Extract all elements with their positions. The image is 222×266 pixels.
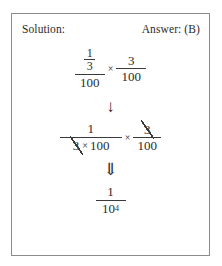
step-1-expression: 1 3 100 × 3 100 <box>75 46 147 90</box>
down-arrow-icon: ↓ <box>106 98 115 115</box>
final-denominator: 104 <box>99 201 122 216</box>
double-down-arrow-icon: ⇓ <box>103 161 117 178</box>
cancelled-three-denominator: 3 <box>72 139 81 152</box>
step2-left-numerator: 1 <box>84 121 97 137</box>
step2-right-numerator: 3 <box>140 122 155 137</box>
step1-right-numerator: 3 <box>125 53 138 68</box>
step2-left-fraction: 1 3 × 100 <box>60 121 122 153</box>
step-2-expression: 1 3 × 100 × 3 100 <box>60 121 162 153</box>
nested-fraction-denominator: 100 <box>77 75 103 90</box>
step2-right-denominator: 100 <box>135 138 161 153</box>
solution-steps: 1 3 100 × 3 100 ↓ 1 <box>12 44 209 216</box>
solution-box: Solution: Answer: (B) 1 3 100 × 3 <box>11 13 210 256</box>
nested-fraction-numerator: 1 3 <box>81 46 98 74</box>
nested-fraction: 1 3 100 <box>75 46 105 90</box>
inner-fraction: 1 3 <box>84 47 95 72</box>
step1-right-denominator: 100 <box>119 69 145 84</box>
inner-fraction-numerator: 1 <box>85 47 95 59</box>
cancelled-three-numerator: 3 <box>143 123 152 136</box>
multiplication-sign-step2: × <box>122 133 134 143</box>
step2-left-denominator: 3 × 100 <box>69 138 113 153</box>
final-denominator-base: 10 <box>102 202 115 215</box>
step2-right-fraction: 3 100 <box>133 122 161 153</box>
final-numerator: 1 <box>104 184 117 200</box>
denominator-multiplication-sign: × <box>80 141 90 151</box>
inner-fraction-denominator: 3 <box>85 60 95 72</box>
final-fraction: 1 104 <box>96 184 126 216</box>
solution-label: Solution: <box>22 23 65 35</box>
answer-label: Answer: (B) <box>142 23 200 35</box>
solution-header: Solution: Answer: (B) <box>12 23 209 41</box>
final-denominator-exponent: 4 <box>115 205 119 213</box>
step-3-expression: 1 104 <box>96 184 126 216</box>
multiplication-sign-step1: × <box>105 64 117 74</box>
step1-right-fraction: 3 100 <box>116 53 146 84</box>
denominator-hundred: 100 <box>90 139 110 152</box>
